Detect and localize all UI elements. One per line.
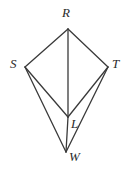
- vertex-label-l: L: [71, 117, 78, 130]
- edges-group: [25, 29, 108, 152]
- vertex-label-s: S: [10, 57, 17, 70]
- segment-l-w: [66, 117, 68, 152]
- figure-canvas: [0, 0, 128, 172]
- vertex-label-r: R: [62, 6, 70, 19]
- vertex-label-w: W: [69, 150, 80, 163]
- segment-r-t: [68, 29, 108, 67]
- segment-s-l: [25, 67, 68, 117]
- vertex-label-t: T: [112, 57, 119, 70]
- segment-t-w: [66, 67, 108, 152]
- segment-t-l: [68, 67, 108, 117]
- segment-s-w: [25, 67, 66, 152]
- segment-r-s: [25, 29, 68, 67]
- geometry-figure: RSTLW: [0, 0, 128, 172]
